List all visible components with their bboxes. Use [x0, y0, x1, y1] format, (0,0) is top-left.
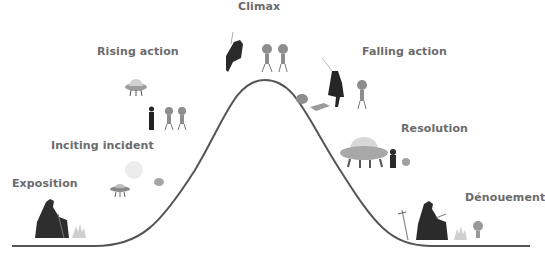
denouement-campfire-figure-icon [396, 198, 494, 244]
exposition-campfire-figure-icon [30, 196, 90, 242]
label-inciting-incident: Inciting incident [51, 139, 154, 152]
falling-action-battle-icon [292, 55, 378, 113]
climax-battle-icon [220, 30, 295, 75]
label-resolution: Resolution [401, 122, 468, 135]
inciting-incident-ufo-icon [108, 160, 168, 205]
label-climax: Climax [238, 0, 280, 13]
rising-action-ufo-robots-icon [122, 74, 194, 132]
label-exposition: Exposition [12, 177, 78, 190]
resolution-ufo-icon [338, 135, 418, 180]
label-rising-action: Rising action [97, 45, 179, 58]
